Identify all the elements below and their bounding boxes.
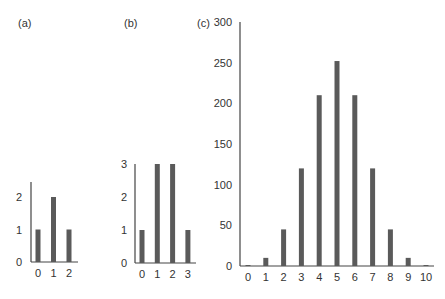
y-tick-label: 0	[16, 256, 22, 268]
x-tick-label: 6	[352, 271, 358, 283]
x-tick-label: 2	[281, 271, 287, 283]
y-tick-label: 250	[214, 57, 232, 69]
bar	[424, 265, 429, 266]
y-tick-label: 50	[220, 219, 232, 231]
chart-c: 050100150200250300012345678910	[214, 16, 434, 283]
x-tick-label: 5	[334, 271, 340, 283]
x-tick-label: 4	[316, 271, 322, 283]
y-tick-label: 2	[16, 191, 22, 203]
x-tick-label: 2	[66, 267, 72, 279]
x-tick-label: 3	[185, 268, 191, 280]
binomial-bar-charts: 012012 01230123 050100150200250300012345…	[0, 0, 445, 299]
bar	[388, 229, 393, 266]
bar	[170, 164, 175, 263]
y-tick-label: 2	[121, 191, 127, 203]
bar	[51, 197, 56, 262]
bar	[335, 61, 340, 266]
y-tick-label: 1	[16, 224, 22, 236]
bar	[140, 230, 145, 263]
bar	[36, 230, 41, 263]
x-tick-label: 0	[139, 268, 145, 280]
bar	[263, 258, 268, 266]
x-tick-label: 0	[35, 267, 41, 279]
y-tick-label: 150	[214, 138, 232, 150]
x-tick-label: 8	[387, 271, 393, 283]
chart-a: 012012	[16, 182, 78, 279]
y-tick-label: 0	[121, 257, 127, 269]
x-tick-label: 1	[50, 267, 56, 279]
y-tick-label: 300	[214, 16, 232, 28]
bar	[67, 230, 72, 263]
bar	[185, 230, 190, 263]
x-tick-label: 3	[298, 271, 304, 283]
y-tick-label: 3	[121, 158, 127, 170]
x-tick-label: 10	[420, 271, 432, 283]
bar	[406, 258, 411, 266]
y-tick-label: 0	[226, 260, 232, 272]
x-tick-label: 0	[245, 271, 251, 283]
bar	[317, 95, 322, 266]
x-tick-label: 2	[170, 268, 176, 280]
y-tick-label: 1	[121, 224, 127, 236]
bar	[246, 265, 251, 266]
bar	[352, 95, 357, 266]
x-tick-label: 9	[405, 271, 411, 283]
x-tick-label: 7	[370, 271, 376, 283]
y-tick-label: 100	[214, 179, 232, 191]
bar	[370, 168, 375, 266]
chart-b: 01230123	[121, 158, 196, 280]
x-tick-label: 1	[154, 268, 160, 280]
bar	[281, 229, 286, 266]
x-tick-label: 1	[263, 271, 269, 283]
bar	[299, 168, 304, 266]
y-tick-label: 200	[214, 97, 232, 109]
bar	[155, 164, 160, 263]
